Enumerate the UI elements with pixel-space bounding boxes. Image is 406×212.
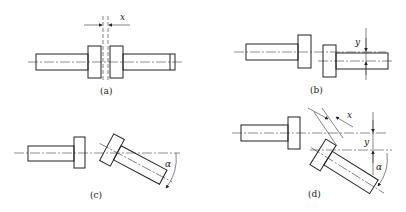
coupling-misalignment-diagram: x (a) y (b) α (c) [0,0,406,212]
symbol-alpha: α [165,159,171,169]
panel-c: α (c) [14,130,180,200]
symbol-y-d: y [363,137,370,147]
symbol-y: y [354,37,361,47]
caption-d: (d) [308,189,321,199]
symbol-x-d: x [347,110,352,120]
caption-a: (a) [100,86,112,96]
caption-c: (c) [90,190,102,200]
caption-b: (b) [310,85,323,95]
symbol-x: x [120,12,125,22]
panel-d: x y α (d) [232,108,392,206]
symbol-alpha-d: α [376,162,382,172]
panel-b: y (b) [234,28,394,95]
panel-a: x (a) [28,12,184,96]
